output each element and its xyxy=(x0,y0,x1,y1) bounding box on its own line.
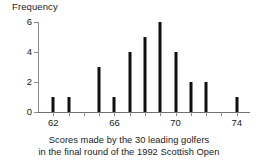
x-tick-mark-65 xyxy=(99,112,100,116)
bar-67 xyxy=(128,52,131,112)
x-tick-label-62: 62 xyxy=(48,118,59,128)
x-tick-mark-69 xyxy=(160,112,161,116)
x-tick-mark-67 xyxy=(130,112,131,116)
caption-line-2: in the final round of the 1992 Scottish … xyxy=(0,146,258,158)
x-axis-line xyxy=(38,112,250,113)
x-tick-mark-72 xyxy=(206,112,207,116)
plot-area: 0246 62667074 xyxy=(38,22,252,112)
y-tick-label: 6 xyxy=(27,17,32,27)
x-tick-mark-68 xyxy=(145,112,146,116)
x-tick-mark-74 xyxy=(237,112,238,116)
bar-66 xyxy=(113,97,116,112)
bar-74 xyxy=(235,97,238,112)
histogram-figure: Frequency 0246 62667074 Scores made by t… xyxy=(0,0,258,168)
bar-65 xyxy=(98,67,101,112)
bar-68 xyxy=(144,37,147,112)
y-tick-mark xyxy=(34,112,38,113)
y-tick-label: 0 xyxy=(27,107,32,117)
bar-62 xyxy=(52,97,55,112)
bar-70 xyxy=(174,52,177,112)
x-tick-mark-63 xyxy=(69,112,70,116)
y-tick-mark xyxy=(34,22,38,23)
y-tick-mark xyxy=(34,82,38,83)
caption-line-1: Scores made by the 30 leading golfers xyxy=(0,134,258,146)
x-tick-label-66: 66 xyxy=(109,118,120,128)
y-tick-label: 2 xyxy=(27,77,32,87)
x-tick-mark-73 xyxy=(221,112,222,116)
figure-caption: Scores made by the 30 leading golfers in… xyxy=(0,134,258,158)
y-tick-mark xyxy=(34,52,38,53)
bar-72 xyxy=(205,82,208,112)
y-axis-line xyxy=(38,22,39,112)
bar-69 xyxy=(159,22,162,112)
x-tick-label-74: 74 xyxy=(231,118,242,128)
y-tick-label: 4 xyxy=(27,47,32,57)
bar-71 xyxy=(189,82,192,112)
x-tick-mark-70 xyxy=(176,112,177,116)
x-tick-mark-64 xyxy=(84,112,85,116)
x-tick-label-70: 70 xyxy=(170,118,181,128)
x-tick-mark-66 xyxy=(114,112,115,116)
y-axis-title: Frequency xyxy=(12,1,58,12)
bar-63 xyxy=(67,97,70,112)
x-tick-mark-62 xyxy=(53,112,54,116)
x-tick-mark-71 xyxy=(191,112,192,116)
